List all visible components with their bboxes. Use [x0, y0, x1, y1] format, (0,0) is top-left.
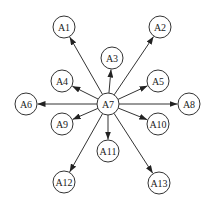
node-a1: A1: [53, 16, 75, 38]
node-a7: A7: [97, 93, 119, 115]
edge-a7-to-a9: [73, 108, 98, 119]
edge-a7-to-a12: [70, 114, 103, 172]
node-label: A7: [102, 99, 114, 110]
node-a6: A6: [15, 93, 37, 115]
node-a4: A4: [51, 70, 73, 92]
edge-a7-to-a5: [118, 86, 148, 100]
node-a5: A5: [147, 70, 169, 92]
node-label: A6: [20, 99, 32, 110]
node-label: A11: [100, 146, 117, 157]
node-a2: A2: [149, 16, 171, 38]
node-a10: A10: [147, 113, 169, 135]
node-label: A9: [56, 119, 68, 130]
node-a9: A9: [51, 113, 73, 135]
node-a3: A3: [101, 47, 123, 69]
star-diagram: A1A2A3A4A5A6A7A8A9A10A11A12A13: [0, 0, 214, 207]
node-label: A8: [183, 99, 195, 110]
edge-a7-to-a1: [70, 37, 103, 94]
node-a8: A8: [178, 93, 200, 115]
nodes-layer: A1A2A3A4A5A6A7A8A9A10A11A12A13: [15, 16, 200, 194]
node-label: A2: [154, 22, 166, 33]
node-label: A10: [149, 119, 166, 130]
node-label: A4: [56, 76, 68, 87]
edge-a7-to-a4: [72, 86, 98, 99]
node-label: A5: [152, 76, 164, 87]
node-a12: A12: [53, 171, 75, 193]
edge-a7-to-a3: [109, 69, 111, 93]
node-a11: A11: [97, 140, 119, 162]
node-a13: A13: [148, 172, 170, 194]
node-label: A1: [58, 22, 70, 33]
edge-a7-to-a10: [118, 108, 147, 120]
node-label: A13: [150, 178, 167, 189]
node-label: A3: [106, 53, 118, 64]
node-label: A12: [55, 177, 72, 188]
